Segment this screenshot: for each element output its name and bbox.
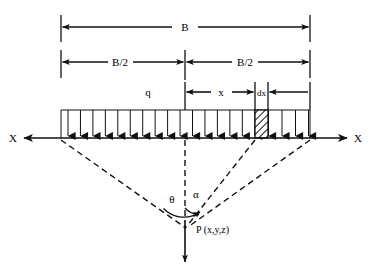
dim-half-right-label: B/2 (237, 56, 253, 68)
alpha-label: α (193, 188, 199, 200)
diagram-canvas: B B/2 B/2 x dx q (0, 0, 371, 269)
ray-left-edge-to-p (61, 140, 183, 226)
stress-rays (61, 140, 310, 227)
dim-B-label: B (181, 21, 188, 33)
dimension-x-dx: x dx q (145, 82, 310, 110)
x-axis-label-right: X (354, 132, 362, 144)
point-p-label: P (x,y,z) (196, 224, 229, 236)
engineering-diagram: B B/2 B/2 x dx q (0, 0, 371, 269)
angle-arcs: θ α (164, 188, 201, 217)
point-p-marker (183, 225, 186, 228)
dim-dx-label: dx (257, 88, 267, 98)
dimension-half-widths: B/2 B/2 (61, 50, 310, 80)
load-arrows (68, 110, 309, 136)
theta-label: θ (169, 193, 174, 205)
distributed-load (61, 110, 310, 138)
dimension-B: B (61, 15, 310, 42)
ray-right-edge-to-p (188, 140, 310, 227)
point-p-group: P (x,y,z) (183, 221, 229, 262)
load-intensity-label: q (145, 86, 151, 98)
element-strip-dx (255, 110, 268, 138)
dim-x-label: x (218, 86, 224, 98)
dim-half-left-label: B/2 (112, 56, 128, 68)
x-axis-label-left: X (9, 132, 17, 144)
